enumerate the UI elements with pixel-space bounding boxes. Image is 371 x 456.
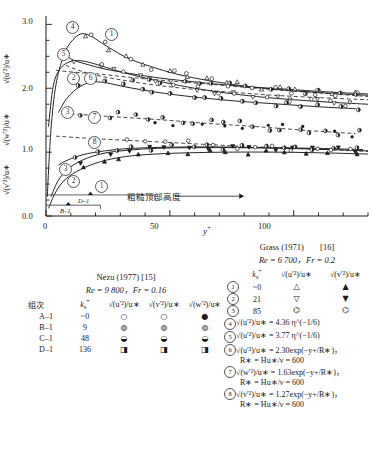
equation-continuation: R∗ = Hu∗/ν = 600 [240, 356, 370, 365]
legend-row-ks: ~0 [66, 311, 104, 322]
legend-equation: 7√(w′²)/u∗ = 1.63exp(−y+/R∗)， [224, 366, 370, 378]
legend-nezu-table: 组次 ks+ √(u′²)/u∗ √(v′²)/u∗ √(w′²)/u∗ A–1… [26, 298, 226, 355]
legend-nezu-title: Nezu (1977) [15] [26, 272, 226, 282]
curve-tag-6: 6 [84, 72, 97, 85]
legend-symbol-u: ◨ [104, 344, 144, 355]
legend-row-ks: ~0 [242, 281, 272, 293]
legend-row-ks: 136 [66, 344, 104, 355]
table-header-row: ks+ √(u′²)/u∗ √(v′²)/u∗ [224, 268, 370, 281]
table-header-row: 组次 ks+ √(u′²)/u∗ √(v′²)/u∗ √(w′²)/u∗ [26, 298, 226, 311]
legend-row-circled-number: 3 [224, 305, 242, 317]
curve-tag-5: 5 [57, 48, 70, 61]
legend-symbol-w: ◍ [184, 322, 226, 333]
legend-symbol-u: △ [272, 281, 321, 293]
legend-symbol-u: ◒ [104, 333, 144, 344]
legend-symbol-u: ○ [104, 311, 144, 322]
legend-nezu-subtitle: Re = 9 800，Fr = 0.16 [26, 283, 226, 295]
legend-row-circled-number: 2 [224, 293, 242, 305]
col-header-group: 组次 [26, 298, 66, 311]
legend-row-group: C–1 [26, 333, 66, 344]
table-row: B–19◍◍◍ [26, 322, 226, 333]
equation-circled-number: 7 [224, 366, 236, 378]
y-axis-label-u: √(u′²)/u∗ [2, 38, 18, 98]
legend-equation: 4√(u′²)/u∗ = 4.36 η^(−1/6) [224, 318, 370, 330]
curve-tag-3-bot: 3 [59, 163, 72, 176]
y-tick-1: 1.0 [22, 144, 33, 154]
legend-row-group: B–1 [26, 322, 66, 333]
col-header-w: √(w′²)/u∗ [184, 298, 226, 311]
legend-grass-title: Grass (1971) [16] [224, 242, 370, 252]
curve-tag-8: 8 [88, 136, 101, 149]
table-row: C–148◒◒◒ [26, 333, 226, 344]
curve-tag-1-top: 1 [105, 28, 118, 41]
legend-row-ks: 9 [66, 322, 104, 333]
col-header-u: √(u′²)/u∗ [104, 298, 144, 311]
x-tick-100: 100 [258, 221, 271, 231]
legend-grass-ref: [16] [320, 242, 334, 252]
col-header-v: √(v′²)/u∗ [321, 268, 370, 281]
legend-equation: 5√(u′²)/u∗ = 3.77 η^(−1/6) [224, 331, 370, 343]
col-header-ks: ks+ [242, 268, 272, 281]
legend-symbol-v: ▼ [321, 293, 370, 305]
legend-symbol-v: ○ [144, 311, 184, 322]
equation-text: √(u′²)/u∗ = 2.30exp(−y+/R∗)， [236, 344, 370, 355]
legend-symbol-v: ▲ [321, 281, 370, 293]
legend-nezu: Nezu (1977) [15] Re = 9 800，Fr = 0.16 组次… [26, 272, 226, 355]
legend-row-ks: 48 [66, 333, 104, 344]
legend-row-ks: 21 [242, 293, 272, 305]
curve-tag-3-top: 3 [61, 106, 74, 119]
legend-symbol-v: ⌬ [321, 305, 370, 317]
col-header-v: √(v′²)/u∗ [144, 298, 184, 311]
legend-grass-table: ks+ √(u′²)/u∗ √(v′²)/u∗ 1~0△▲221▽▼385⌬⌬ [224, 268, 370, 317]
col-header-ks: ks+ [66, 298, 104, 311]
legend-row-ks: 85 [242, 305, 272, 317]
x-tick-50: 50 [150, 221, 159, 231]
y-tick-0: 0.0 [22, 211, 33, 221]
equation-continuation: R∗ = Hu∗/ν = 600 [240, 400, 370, 409]
equation-circled-number: 8 [224, 388, 236, 400]
legend-equation: 6√(u′²)/u∗ = 2.30exp(−y+/R∗)， [224, 344, 370, 356]
equation-text: √(v′²)/u∗ = 1.27exp(−y+/R∗)， [236, 388, 370, 399]
curve-tag-2-bot: 2 [67, 175, 80, 188]
x-axis-title: y+ [203, 225, 211, 236]
legend-symbol-u: ◍ [104, 322, 144, 333]
legend-symbol-w: ◒ [184, 333, 226, 344]
legend-symbol-w: ● [184, 311, 226, 322]
curve-tag-7: 7 [88, 111, 101, 124]
legend-symbol-u: ⌬ [272, 305, 321, 317]
marker-label-b1: B–1 [60, 207, 70, 214]
col-header-u: √(u′²)/u∗ [272, 268, 321, 281]
legend-grass-title-text: Grass (1971) [260, 242, 304, 252]
y-tick-3: 3.0 [22, 16, 33, 26]
legend-symbol-u: ▽ [272, 293, 321, 305]
curve-tag-2-top: 2 [67, 72, 80, 85]
legend-row-group: D–1 [26, 344, 66, 355]
table-row: D–1136◨◨◨ [26, 344, 226, 355]
table-row: 221▽▼ [224, 293, 370, 305]
legend-grass-equations: 4√(u′²)/u∗ = 4.36 η^(−1/6)5√(u′²)/u∗ = 3… [224, 318, 370, 409]
curve-tag-4: 4 [66, 21, 79, 34]
legend-symbol-v: ◨ [144, 344, 184, 355]
table-row: 1~0△▲ [224, 281, 370, 293]
legend-grass-subtitle: Re = 6 700，Fr = 0.2 [224, 253, 370, 265]
equation-circled-number: 5 [224, 331, 236, 343]
legend-row-group: A–1 [26, 311, 66, 322]
y-tick-2: 2.0 [22, 83, 33, 93]
legend-symbol-v: ◍ [144, 322, 184, 333]
x-tick-0: 0 [43, 221, 47, 231]
roughness-height-note: 粗糙顶部高度 [127, 190, 181, 202]
equation-continuation: R∗ = Hu∗/ν = 600 [240, 378, 370, 387]
equation-circled-number: 4 [224, 318, 236, 330]
equation-text: √(u′²)/u∗ = 4.36 η^(−1/6) [236, 318, 370, 327]
curve-tag-1-bot: 1 [95, 180, 108, 193]
table-row: A–1~0○○● [26, 311, 226, 322]
legend-equation: 8√(v′²)/u∗ = 1.27exp(−y+/R∗)， [224, 388, 370, 400]
equation-circled-number: 6 [224, 344, 236, 356]
y-axis-label-v: √(v′²)/u∗ [2, 150, 18, 208]
table-row: 385⌬⌬ [224, 305, 370, 317]
legend-symbol-w: ◨ [184, 344, 226, 355]
marker-label-d1: D–1 [78, 197, 89, 204]
equation-text: √(u′²)/u∗ = 3.77 η^(−1/6) [236, 331, 370, 340]
legend-row-circled-number: 1 [224, 281, 242, 293]
legend-grass: Grass (1971) [16] Re = 6 700，Fr = 0.2 ks… [224, 242, 370, 409]
